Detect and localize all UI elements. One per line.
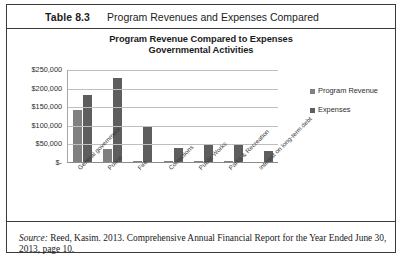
bar-group — [254, 70, 274, 162]
legend-item: Expenses — [310, 106, 394, 115]
y-axis-tick-label: $100,000 — [32, 122, 62, 130]
bar-group — [164, 70, 184, 162]
table-number: Table 8.3 — [45, 11, 90, 23]
bar — [113, 78, 122, 162]
y-axis-tick-label: $- — [56, 159, 63, 167]
bar — [73, 110, 82, 162]
chart-title-line1: Program Revenue Compared to Expenses — [109, 34, 293, 44]
legend-swatch — [310, 89, 315, 94]
bar-group — [133, 70, 153, 162]
y-axis-tick-label: $250,000 — [32, 66, 62, 74]
source-prefix: Source: — [19, 233, 48, 243]
table-figure: Table 8.3 Program Revenues and Expenses … — [0, 0, 402, 260]
y-axis-tick-label: $150,000 — [32, 103, 62, 111]
gridline — [68, 89, 278, 90]
y-axis-tick-label: $200,000 — [32, 85, 62, 93]
bar-group — [224, 70, 244, 162]
bar-group — [73, 70, 93, 162]
table-caption: Table 8.3 Program Revenues and Expenses … — [45, 11, 319, 23]
legend-label: Program Revenue — [318, 87, 378, 96]
table-frame: Table 8.3 Program Revenues and Expenses … — [6, 4, 396, 253]
chart-title: Program Revenue Compared to Expenses Gov… — [7, 34, 395, 56]
bar-group — [103, 70, 123, 162]
table-title: Program Revenues and Expenses Compared — [107, 11, 319, 23]
gridline — [68, 70, 278, 71]
legend-item: Program Revenue — [310, 87, 394, 96]
y-axis-labels: $-$50,000$100,000$150,000$200,000$250,00… — [7, 70, 65, 163]
gridline — [68, 107, 278, 108]
source-text: Reed, Kasim. 2013. Comprehensive Annual … — [19, 233, 386, 254]
gridline — [68, 126, 278, 127]
source-note: Source: Reed, Kasim. 2013. Comprehensive… — [13, 229, 402, 256]
table-caption-bar: Table 8.3 Program Revenues and Expenses … — [7, 5, 395, 29]
y-axis-tick-label: $50,000 — [36, 140, 62, 148]
chart-legend: Program RevenueExpenses — [310, 87, 394, 124]
legend-label: Expenses — [318, 106, 350, 115]
chart-title-line2: Governmental Activities — [7, 45, 395, 56]
bar-group — [194, 70, 214, 162]
chart-container: Program Revenue Compared to Expenses Gov… — [7, 29, 395, 222]
legend-swatch — [310, 108, 315, 113]
x-axis-labels: General governmentPoliceFireCorrectionsP… — [67, 163, 297, 221]
